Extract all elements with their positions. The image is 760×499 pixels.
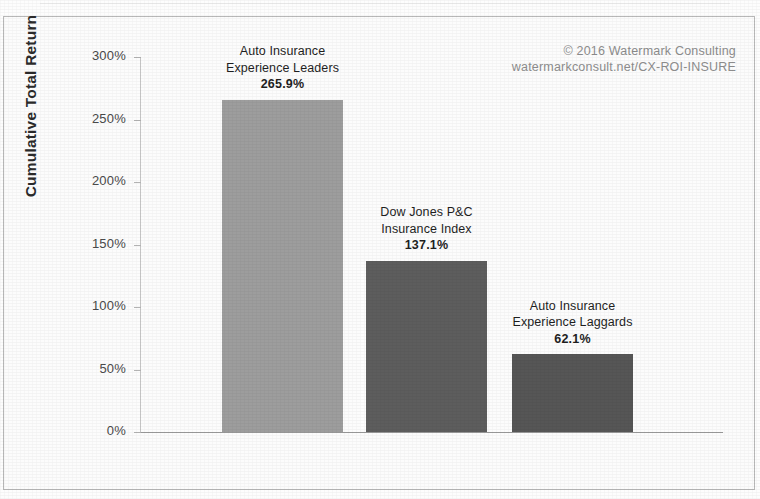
y-axis-tick-label: 250%: [92, 111, 126, 126]
y-axis-tick-label: 50%: [99, 361, 126, 376]
y-axis-tick: 100%: [0, 307, 140, 308]
bar-label-line-2: Insurance Index: [380, 221, 472, 238]
bar-1[interactable]: Auto InsuranceExperience Leaders265.9%: [222, 57, 343, 432]
y-axis-tick-label: 100%: [92, 298, 126, 313]
bar-label-line-2: Experience Leaders: [226, 60, 339, 77]
bar-label: Auto InsuranceExperience Laggards62.1%: [512, 298, 632, 348]
y-axis-tick-label: 0%: [107, 423, 126, 438]
y-axis-tick: 150%: [0, 245, 140, 246]
bar-3[interactable]: Auto InsuranceExperience Laggards62.1%: [512, 57, 633, 432]
x-axis-line: [140, 432, 723, 433]
y-axis-tick: 0%: [0, 432, 140, 433]
bar-label: Auto InsuranceExperience Leaders265.9%: [226, 43, 339, 93]
bar-2[interactable]: Dow Jones P&CInsurance Index137.1%: [366, 57, 487, 432]
y-axis-tick-label: 200%: [92, 173, 126, 188]
y-axis-tick: 250%: [0, 120, 140, 121]
scanned-page: © 2016 Watermark Consulting watermarkcon…: [0, 0, 760, 499]
bar-label-line-1: Auto Insurance: [226, 43, 339, 60]
y-axis-tick: 300%: [0, 57, 140, 58]
bar-label-line-1: Dow Jones P&C: [380, 204, 472, 221]
bar-value-label: 137.1%: [380, 237, 472, 254]
bar-value-label: 265.9%: [226, 76, 339, 93]
y-axis-tick-label: 300%: [92, 48, 126, 63]
y-axis-tick: 200%: [0, 182, 140, 183]
scan-artifact-line: [40, 3, 730, 4]
bar-rect[interactable]: [512, 354, 633, 432]
plot-area: Auto InsuranceExperience Leaders265.9%Do…: [140, 57, 723, 432]
bar-label: Dow Jones P&CInsurance Index137.1%: [380, 204, 472, 254]
bar-rect[interactable]: [222, 100, 343, 432]
y-axis-tick-mark: [134, 432, 141, 433]
y-axis-tick-label: 150%: [92, 236, 126, 251]
bar-rect[interactable]: [366, 261, 487, 432]
y-axis-title: Cumulative Total Return: [22, 0, 78, 216]
bar-value-label: 62.1%: [512, 331, 632, 348]
y-axis-tick: 50%: [0, 370, 140, 371]
bar-label-line-2: Experience Laggards: [512, 314, 632, 331]
bar-label-line-1: Auto Insurance: [512, 298, 632, 315]
